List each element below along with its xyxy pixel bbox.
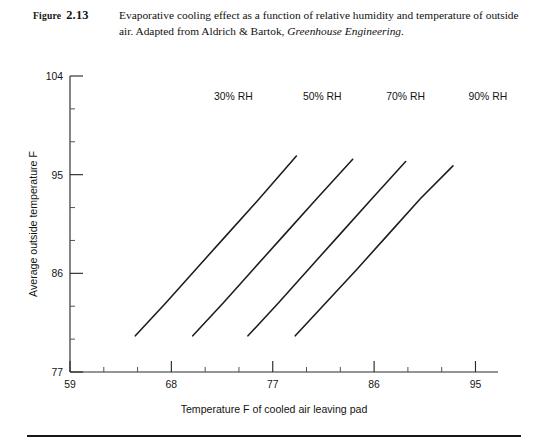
figure-container: Figure2.13 Evaporative cooling effect as… <box>0 0 548 447</box>
y-tick-label: 77 <box>51 367 63 378</box>
series-label-90rh: 90% RH <box>469 91 508 102</box>
y-axis-title: Average outside temperature F <box>27 119 39 329</box>
x-tick-label: 68 <box>166 379 178 390</box>
chart-svg: 5968778695778695104 30% RH50% RH70% RH90… <box>0 0 548 447</box>
series-label-30rh: 30% RH <box>214 91 253 102</box>
axes-group: 5968778695778695104 <box>46 71 498 390</box>
series-label-50rh: 50% RH <box>303 91 342 102</box>
x-tick-label: 86 <box>368 379 380 390</box>
chart-plot-area: 5968778695778695104 30% RH50% RH70% RH90… <box>0 0 548 447</box>
footer-divider <box>27 435 521 437</box>
x-tick-label: 59 <box>64 379 76 390</box>
x-axis-title: Temperature F of cooled air leaving pad <box>0 403 548 415</box>
x-tick-label: 77 <box>267 379 279 390</box>
curves-group <box>135 156 453 336</box>
y-tick-label: 86 <box>51 268 63 279</box>
y-tick-label: 95 <box>51 170 63 181</box>
series-labels-group: 30% RH50% RH70% RH90% RH <box>214 91 507 102</box>
series-label-70rh: 70% RH <box>386 91 425 102</box>
x-tick-label: 95 <box>470 379 482 390</box>
curve-90rh <box>295 166 453 336</box>
y-tick-label: 104 <box>46 71 64 82</box>
